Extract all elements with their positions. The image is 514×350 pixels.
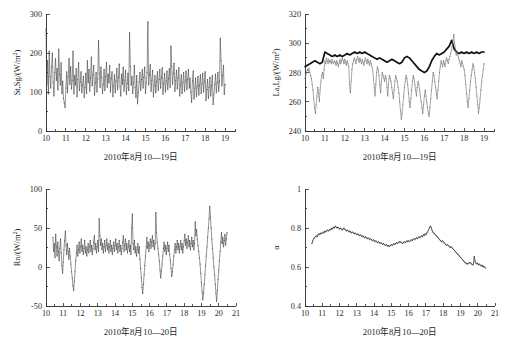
series-point xyxy=(77,96,78,97)
series-point xyxy=(343,228,344,229)
series-point xyxy=(343,228,344,229)
series-point xyxy=(468,107,469,108)
series-point xyxy=(94,235,95,236)
series-point xyxy=(408,240,409,241)
series-point xyxy=(148,242,149,243)
series-point xyxy=(414,78,415,79)
series-point xyxy=(147,21,148,22)
series-point xyxy=(103,252,104,253)
series-point xyxy=(481,81,482,82)
series-point xyxy=(182,252,183,253)
series-point xyxy=(163,248,164,249)
series-point xyxy=(223,65,224,66)
series-point xyxy=(198,76,199,77)
series-point xyxy=(99,73,100,74)
series-point xyxy=(431,229,432,230)
series-point xyxy=(134,240,135,241)
series-point xyxy=(209,77,210,78)
series-point xyxy=(319,101,320,102)
series-point xyxy=(336,227,337,228)
series-point xyxy=(172,84,173,85)
series-point xyxy=(374,241,375,242)
series-point xyxy=(100,245,101,246)
series-point xyxy=(434,233,435,234)
series-point xyxy=(200,74,201,75)
x-tick-label: 20 xyxy=(215,309,223,318)
series-point xyxy=(121,74,122,75)
series-point xyxy=(173,263,174,264)
series-point xyxy=(97,246,98,247)
series-point xyxy=(132,213,133,214)
series-point xyxy=(427,107,428,108)
x-tick-label: 17 xyxy=(440,134,448,143)
series-point xyxy=(482,267,483,268)
series-point xyxy=(384,81,385,82)
series-point xyxy=(199,84,200,85)
series-point xyxy=(61,62,62,63)
series-point xyxy=(191,102,192,103)
series-point xyxy=(187,242,188,243)
series-point xyxy=(97,78,98,79)
series-point xyxy=(124,80,125,81)
series-point xyxy=(54,72,55,73)
series-point xyxy=(379,75,380,76)
series-point xyxy=(438,238,439,239)
series-point xyxy=(333,227,334,228)
series-point xyxy=(398,87,399,88)
series-point xyxy=(450,246,451,247)
series-point xyxy=(202,299,203,300)
series-point xyxy=(476,95,477,96)
series-point xyxy=(107,249,108,250)
x-tick-label: 10 xyxy=(301,309,309,318)
series-point xyxy=(333,63,334,64)
series-point xyxy=(327,60,328,61)
x-tick-label: 10 xyxy=(42,309,50,318)
series-point xyxy=(433,72,434,73)
series-point xyxy=(392,92,393,93)
series-point xyxy=(71,271,72,272)
series-point xyxy=(145,93,146,94)
series-point xyxy=(458,255,459,256)
series-point xyxy=(414,239,415,240)
series-point xyxy=(338,66,339,67)
series-point xyxy=(46,84,47,85)
series-point xyxy=(105,251,106,252)
series-point xyxy=(102,243,103,244)
panel-albedo: 10.80.60.41011121314151617181920212010年8… xyxy=(257,175,514,350)
series-point xyxy=(225,84,226,85)
series-point xyxy=(86,93,87,94)
series-point xyxy=(82,84,83,85)
series-point xyxy=(140,268,141,269)
series-point xyxy=(352,231,353,232)
series-point xyxy=(70,66,71,67)
series-point xyxy=(177,249,178,250)
series-point xyxy=(481,266,482,267)
series-point xyxy=(183,246,184,247)
series-point xyxy=(480,265,481,266)
series-point xyxy=(136,75,137,76)
series-point xyxy=(118,77,119,78)
series-point xyxy=(130,245,131,246)
series-point xyxy=(164,251,165,252)
series-point xyxy=(476,87,477,88)
series-point xyxy=(49,51,50,52)
series-point xyxy=(208,228,209,229)
series-point xyxy=(205,265,206,266)
series-point xyxy=(442,240,443,241)
x-tick-label: 16 xyxy=(161,134,169,143)
series-point xyxy=(185,245,186,246)
series-point xyxy=(150,238,151,239)
series-point xyxy=(436,92,437,93)
series-point xyxy=(188,69,189,70)
series-point xyxy=(322,232,323,233)
series-point xyxy=(359,62,360,63)
series-point xyxy=(144,67,145,68)
series-point xyxy=(336,65,337,66)
series-point xyxy=(347,60,348,61)
series-point xyxy=(423,104,424,105)
series-point xyxy=(155,243,156,244)
series-point xyxy=(162,94,163,95)
plot-net-radiation: 100500-501011121314151617181920212010年8月… xyxy=(0,175,257,350)
series-point xyxy=(457,253,458,254)
series-point xyxy=(364,60,365,61)
